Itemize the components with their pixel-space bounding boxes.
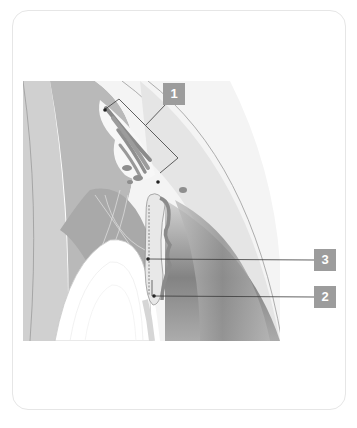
callout-label-3: 3 (314, 249, 336, 271)
callout-label-2: 2 (314, 286, 336, 308)
callout-label-1: 1 (163, 83, 185, 105)
eye-angle-illustration (0, 0, 357, 428)
